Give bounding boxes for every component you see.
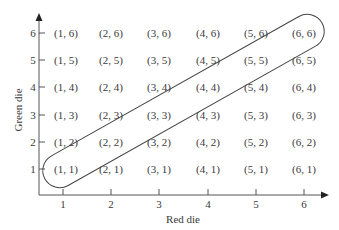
outcome-label: (5, 5)	[244, 54, 268, 66]
outcome-label: (4, 6)	[196, 27, 220, 39]
outcome-label: (3, 5)	[147, 54, 171, 66]
outcome-label: (6, 6)	[292, 27, 316, 39]
outcome-label: (1, 4)	[54, 81, 78, 93]
outcome-label: (3, 4)	[147, 81, 171, 93]
x-tick-label: 2	[108, 198, 114, 210]
outcome-label: (1, 2)	[54, 136, 78, 148]
x-tick-label: 4	[205, 198, 211, 210]
outcome-label: (2, 6)	[99, 27, 123, 39]
outcome-label: (4, 5)	[196, 54, 220, 66]
outcome-label: (4, 1)	[196, 163, 220, 175]
outcome-label: (6, 2)	[292, 136, 316, 148]
x-tick-label: 3	[156, 198, 162, 210]
y-axis-arrow-icon	[36, 13, 43, 21]
y-tick-label: 1	[30, 163, 36, 175]
y-ticks	[39, 33, 45, 169]
outcome-label: (6, 3)	[292, 109, 316, 121]
dice-outcome-diagram: 6 5 4 3 2 1 1 2 3 4 5 6 Red die Green di…	[0, 0, 339, 230]
outcome-label: (1, 5)	[54, 54, 78, 66]
x-ticks	[63, 189, 304, 195]
outcome-label: (5, 4)	[244, 81, 268, 93]
y-tick-label: 4	[30, 81, 36, 93]
outcome-label: (5, 1)	[244, 163, 268, 175]
outcome-label: (2, 3)	[99, 109, 123, 121]
outcome-label: (4, 2)	[196, 136, 220, 148]
x-tick-label: 5	[253, 198, 259, 210]
doubles-enclosure	[37, 8, 331, 194]
y-axis-title: Green die	[12, 88, 24, 131]
y-tick-label: 3	[30, 109, 36, 121]
x-axis-arrow-icon	[321, 192, 329, 199]
outcome-label: (4, 3)	[196, 109, 220, 121]
y-tick-label: 5	[30, 54, 36, 66]
y-tick-label: 6	[30, 27, 36, 39]
outcome-label: (5, 3)	[244, 109, 268, 121]
outcome-label: (1, 3)	[54, 109, 78, 121]
outcome-label: (5, 6)	[244, 27, 268, 39]
outcome-label: (2, 2)	[99, 136, 123, 148]
outcome-label: (3, 1)	[147, 163, 171, 175]
outcome-label: (2, 4)	[99, 81, 123, 93]
outcome-label: (6, 5)	[292, 54, 316, 66]
y-tick-label: 2	[30, 136, 36, 148]
outcome-label: (3, 6)	[147, 27, 171, 39]
x-axis-title: Red die	[166, 213, 200, 225]
outcome-label: (6, 4)	[292, 81, 316, 93]
x-tick-label: 6	[301, 198, 307, 210]
outcome-label: (6, 1)	[292, 163, 316, 175]
outcome-label: (4, 4)	[196, 81, 220, 93]
outcome-label: (1, 6)	[54, 27, 78, 39]
outcome-label: (2, 5)	[99, 54, 123, 66]
outcome-label: (1, 1)	[54, 163, 78, 175]
x-tick-label: 1	[60, 198, 66, 210]
outcome-label: (3, 3)	[147, 109, 171, 121]
outcome-label: (5, 2)	[244, 136, 268, 148]
outcome-label: (3, 2)	[147, 136, 171, 148]
outcome-label: (2, 1)	[99, 163, 123, 175]
